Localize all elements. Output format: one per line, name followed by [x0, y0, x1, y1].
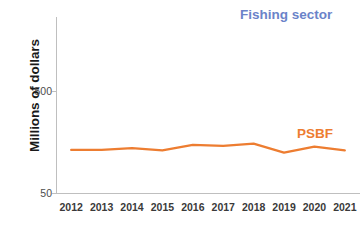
- series-label-fishing-sector: Fishing sector: [240, 7, 332, 22]
- line-chart: Millions of dollars 500 50 Fishing secto…: [0, 0, 364, 229]
- series-label-psbf: PSBF: [297, 126, 333, 141]
- x-axis-tick-label-2015: 2015: [147, 198, 177, 216]
- series-line-psbf: [71, 144, 345, 153]
- plot-area: [0, 0, 364, 229]
- x-axis-tick-label-2021: 2021: [330, 198, 360, 216]
- x-axis-tick-label-2018: 2018: [238, 198, 268, 216]
- x-axis-tick-labels: 2012201320142015201620172018201920202021: [56, 198, 360, 216]
- x-axis-tick-label-2013: 2013: [86, 198, 116, 216]
- x-axis-tick-label-2020: 2020: [299, 198, 329, 216]
- x-axis-tick-label-2017: 2017: [208, 198, 238, 216]
- x-axis-tick-label-2012: 2012: [56, 198, 86, 216]
- x-axis-tick-label-2014: 2014: [117, 198, 147, 216]
- x-axis-tick-label-2019: 2019: [269, 198, 299, 216]
- x-axis-tick-label-2016: 2016: [178, 198, 208, 216]
